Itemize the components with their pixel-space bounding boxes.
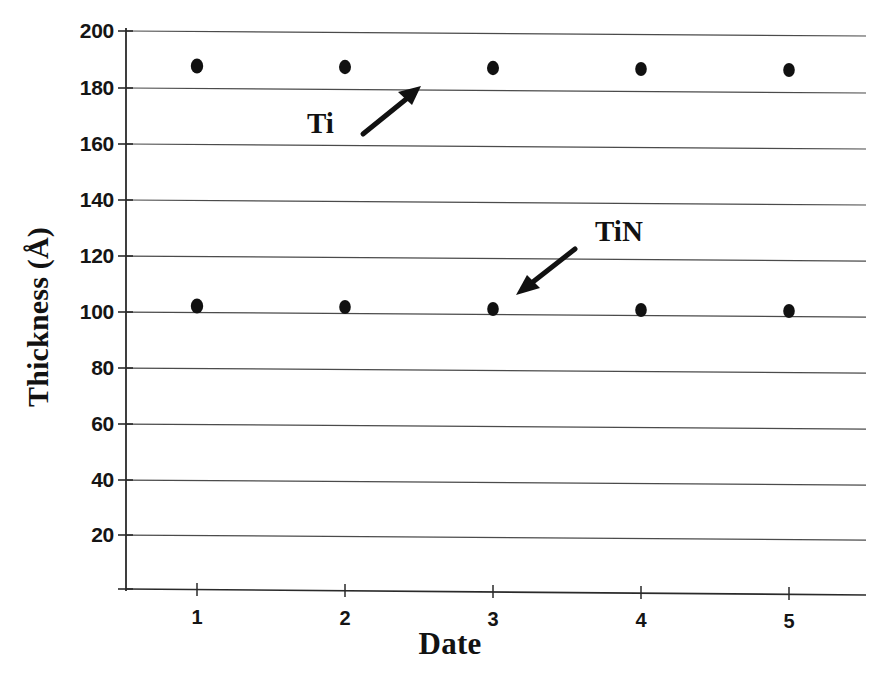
gridline-40 bbox=[126, 480, 866, 485]
ytick-label-60: 60 bbox=[52, 412, 114, 436]
xtick-label-2: 2 bbox=[325, 607, 365, 630]
ytick-label-180: 180 bbox=[52, 76, 114, 100]
xtick-label-1: 1 bbox=[177, 606, 217, 629]
data-point bbox=[339, 60, 351, 74]
data-point bbox=[487, 302, 499, 316]
annotation-tin: TiN bbox=[595, 215, 643, 248]
y-axis-label: Thickness (Å) bbox=[21, 187, 55, 447]
data-point bbox=[487, 61, 499, 75]
ytick-label-200: 200 bbox=[52, 19, 114, 43]
chart-figure: 200 180 160 140 120 100 80 60 40 20 1 2 … bbox=[0, 0, 885, 688]
annotation-ti: Ti bbox=[307, 107, 334, 140]
data-point bbox=[783, 304, 795, 318]
series-ti-markers bbox=[191, 59, 795, 77]
tin-annotation-arrow bbox=[516, 249, 575, 295]
data-point bbox=[635, 303, 647, 317]
data-point bbox=[191, 59, 203, 74]
gridline-20 bbox=[126, 535, 866, 540]
gridline-140 bbox=[126, 200, 866, 205]
gridlines bbox=[126, 31, 866, 540]
ytick-label-40: 40 bbox=[52, 468, 114, 492]
ytick-label-100: 100 bbox=[52, 300, 114, 324]
ytick-label-120: 120 bbox=[52, 244, 114, 268]
data-point bbox=[339, 300, 351, 314]
gridline-160 bbox=[126, 144, 866, 149]
x-axis-line bbox=[126, 589, 866, 595]
ytick-label-20: 20 bbox=[52, 523, 114, 547]
data-point bbox=[191, 299, 203, 314]
ytick-label-160: 160 bbox=[52, 132, 114, 156]
x-tick-marks bbox=[197, 583, 789, 600]
data-point bbox=[635, 62, 647, 76]
xtick-label-5: 5 bbox=[769, 610, 809, 633]
plot-area bbox=[0, 0, 885, 688]
ytick-label-80: 80 bbox=[52, 356, 114, 380]
gridline-80 bbox=[126, 368, 866, 373]
data-point bbox=[783, 63, 795, 77]
xtick-label-4: 4 bbox=[621, 609, 661, 632]
ytick-label-140: 140 bbox=[52, 188, 114, 212]
gridline-120 bbox=[126, 256, 866, 261]
gridline-60 bbox=[126, 424, 866, 429]
gridline-200 bbox=[126, 31, 866, 36]
x-axis-label: Date bbox=[380, 626, 520, 662]
gridline-180 bbox=[126, 88, 866, 93]
series-tin-markers bbox=[191, 299, 795, 318]
ti-annotation-arrow bbox=[363, 86, 421, 134]
